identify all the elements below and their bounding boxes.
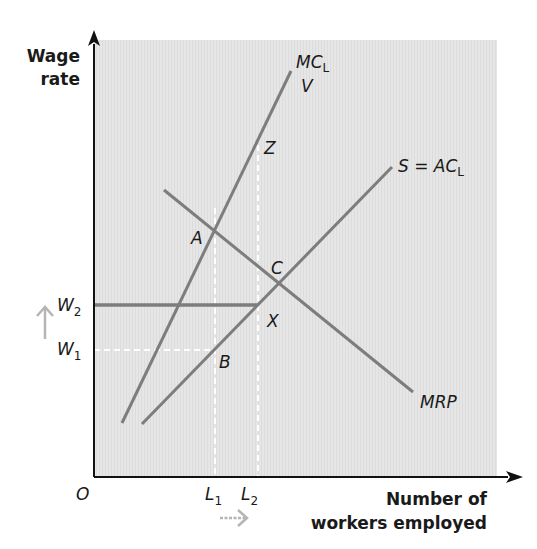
x-axis-arrowhead-icon (506, 471, 523, 483)
l2-label: L2 (241, 484, 258, 508)
x-axis-title-line1: Number of (386, 489, 488, 509)
l1-label: L1 (205, 484, 222, 508)
y-axis-title-line1: Wage (27, 46, 80, 66)
mrp-label: MRP (420, 392, 457, 412)
wage-rise-arrow-icon (37, 307, 53, 339)
point-a-label: A (190, 228, 203, 248)
w1-label: W1 (57, 339, 81, 363)
point-b-label: B (219, 352, 231, 372)
x-axis-title-line2: workers employed (311, 513, 487, 533)
point-x-label: X (266, 311, 279, 331)
w2-label: W2 (57, 295, 81, 319)
point-z-label: Z (263, 138, 276, 158)
v-point-label: V (301, 76, 314, 96)
y-axis-title-line2: rate (40, 69, 80, 89)
origin-label: O (76, 484, 89, 504)
point-c-label: C (271, 258, 283, 278)
monopsony-diagram: Wage rate Number of workers employed O M… (0, 0, 537, 549)
supply-ac-l-label: S = ACL (398, 156, 464, 179)
employment-rise-arrow-icon (220, 510, 247, 526)
